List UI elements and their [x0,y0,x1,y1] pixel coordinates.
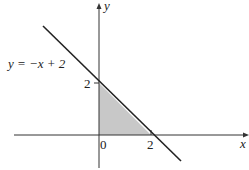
equation-label: y = −x + 2 [6,56,66,71]
origin-label: 0 [100,137,107,152]
x-intercept-label: 2 [147,137,154,152]
y-axis-label: y [102,0,110,13]
x-axis-label: x [239,136,246,151]
y-intercept-label: 2 [84,76,91,91]
shaded-triangle-region [99,83,151,135]
line-y-equals-neg-x-plus-2 [43,26,181,161]
y-axis-arrow-icon [97,3,102,9]
graph-figure: y x 0 2 2 y = −x + 2 [0,0,249,170]
